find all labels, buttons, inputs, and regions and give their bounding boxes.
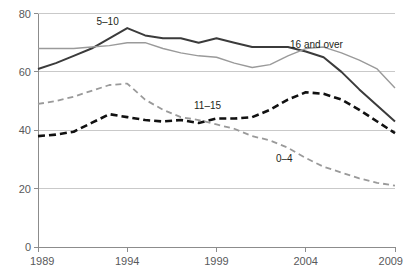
y-tick-label: 40 bbox=[19, 124, 31, 136]
x-tick-label: 2004 bbox=[294, 255, 318, 267]
x-tick-labels: 19891994199920042009 bbox=[30, 255, 403, 267]
y-tick-label: 60 bbox=[19, 66, 31, 78]
x-tick-label: 1994 bbox=[115, 255, 139, 267]
y-tick-label: 0 bbox=[25, 241, 31, 253]
series-label-16-and-over: 16 and over bbox=[290, 39, 343, 50]
x-tick-label: 2009 bbox=[379, 255, 403, 267]
x-tick-label: 1999 bbox=[204, 255, 228, 267]
series-line-11-15 bbox=[38, 92, 395, 136]
series-label-5-10: 5–10 bbox=[96, 16, 119, 27]
series-line-0-4 bbox=[38, 84, 395, 186]
line-chart: 020406080 19891994199920042009 5–1016 an… bbox=[0, 0, 408, 274]
x-tick-label: 1989 bbox=[30, 255, 54, 267]
series-label-11-15: 11–15 bbox=[194, 100, 222, 111]
y-tick-label: 20 bbox=[19, 183, 31, 195]
chart-canvas: 020406080 19891994199920042009 5–1016 an… bbox=[0, 0, 408, 274]
y-tick-labels: 020406080 bbox=[19, 8, 31, 254]
y-tick-label: 80 bbox=[19, 8, 31, 20]
series-label-0-4: 0–4 bbox=[276, 153, 293, 164]
